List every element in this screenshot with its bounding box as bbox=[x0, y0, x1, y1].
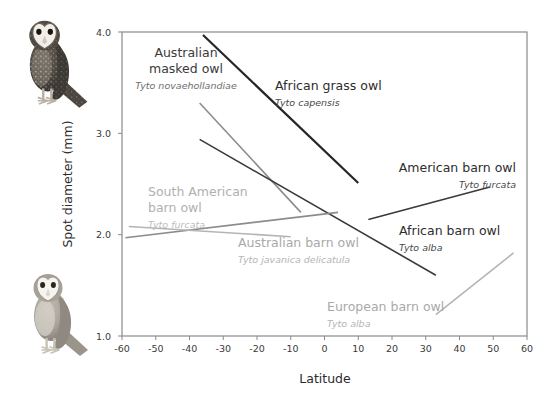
species-common-name: Australian barn owl bbox=[238, 235, 359, 250]
x-tick-label: -10 bbox=[283, 343, 299, 354]
species-common-name: African grass owl bbox=[275, 78, 382, 93]
x-tick-label: 0 bbox=[321, 343, 327, 354]
species-latin-name: Tyto furcata bbox=[459, 179, 516, 190]
x-tick-label: 50 bbox=[487, 343, 499, 354]
y-axis-title: Spot diameter (mm) bbox=[60, 120, 75, 247]
x-tick-label: -30 bbox=[215, 343, 231, 354]
x-tick-label: 20 bbox=[386, 343, 398, 354]
x-tick-label: -60 bbox=[114, 343, 130, 354]
y-tick-label: 1.0 bbox=[96, 331, 111, 342]
species-common-name: South American bbox=[148, 184, 248, 199]
species-latin-name: Tyto javanica delicatula bbox=[238, 254, 350, 265]
species-common-name: European barn owl bbox=[327, 299, 444, 314]
species-latin-name: Tyto novaehollandiae bbox=[135, 80, 237, 91]
x-axis-title: Latitude bbox=[299, 371, 351, 386]
species-common-name: masked owl bbox=[149, 61, 223, 76]
species-common-name: barn owl bbox=[148, 200, 202, 215]
owl-spot-diameter-chart: -60-50-40-30-20-100102030405060 1.02.03.… bbox=[0, 0, 560, 406]
figure-background bbox=[0, 0, 560, 406]
x-tick-label: -50 bbox=[148, 343, 164, 354]
species-common-name: African barn owl bbox=[399, 223, 500, 238]
y-tick-label: 4.0 bbox=[96, 27, 111, 38]
species-latin-name: Tyto alba bbox=[399, 242, 443, 253]
species-latin-name: Tyto capensis bbox=[275, 97, 340, 108]
x-tick-label: 10 bbox=[352, 343, 364, 354]
species-latin-name: Tyto alba bbox=[327, 318, 371, 329]
x-tick-label: 30 bbox=[420, 343, 432, 354]
species-common-name: American barn owl bbox=[399, 160, 516, 175]
x-tick-label: -20 bbox=[249, 343, 265, 354]
x-tick-label: 60 bbox=[521, 343, 533, 354]
y-tick-label: 3.0 bbox=[96, 128, 111, 139]
x-tick-label: -40 bbox=[182, 343, 198, 354]
species-latin-name: Tyto furcata bbox=[148, 219, 205, 230]
y-tick-label: 2.0 bbox=[96, 229, 111, 240]
x-tick-label: 40 bbox=[453, 343, 465, 354]
species-common-name: Australian bbox=[154, 45, 217, 60]
